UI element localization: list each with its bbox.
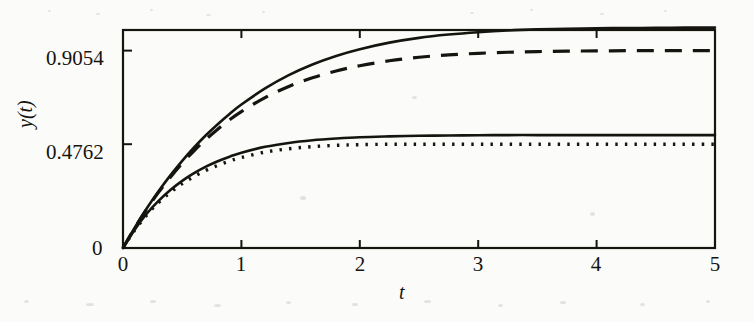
plot-frame (123, 30, 715, 248)
y-axis-title: y(t) (14, 100, 37, 128)
x-tick-label-2: 2 (340, 252, 380, 277)
x-tick-label-0: 0 (103, 252, 143, 277)
curve-solid-lower (123, 135, 715, 248)
x-axis-title: t (399, 281, 405, 304)
figure-container: 0 0.4762 0.9054 0 1 2 3 4 5 t y(t) (0, 0, 754, 322)
x-tick-label-5: 5 (695, 252, 735, 277)
x-tick-label-3: 3 (458, 252, 498, 277)
curve-solid-upper (123, 28, 715, 248)
x-tick-label-4: 4 (576, 252, 616, 277)
curve-dashed-upper (123, 51, 715, 248)
axis-ticks (123, 30, 597, 248)
y-tick-label-0: 0 (92, 236, 103, 261)
data-curves (123, 28, 715, 248)
curve-dotted-lower (123, 144, 715, 248)
y-tick-label-2: 0.9054 (46, 46, 104, 71)
x-tick-label-1: 1 (221, 252, 261, 277)
y-tick-label-1: 0.4762 (46, 140, 104, 165)
